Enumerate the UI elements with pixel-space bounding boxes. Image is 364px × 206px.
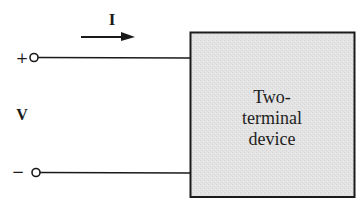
device-label-line-2: terminal: [242, 108, 302, 128]
positive-terminal: [30, 54, 38, 62]
arrowhead-icon: [121, 32, 135, 41]
top-wire: [38, 58, 191, 59]
negative-terminal: [32, 169, 40, 177]
minus-sign: −: [12, 163, 25, 181]
device-label-line-1: Two-: [253, 87, 291, 107]
bottom-wire: [40, 173, 191, 174]
plus-sign: +: [16, 49, 29, 67]
voltage-label: V: [16, 106, 28, 123]
two-terminal-device-diagram: I + V − Two- terminal device: [0, 0, 364, 206]
device-label-line-3: device: [249, 129, 296, 149]
current-label: I: [109, 10, 116, 29]
current-arrow: [81, 32, 135, 41]
